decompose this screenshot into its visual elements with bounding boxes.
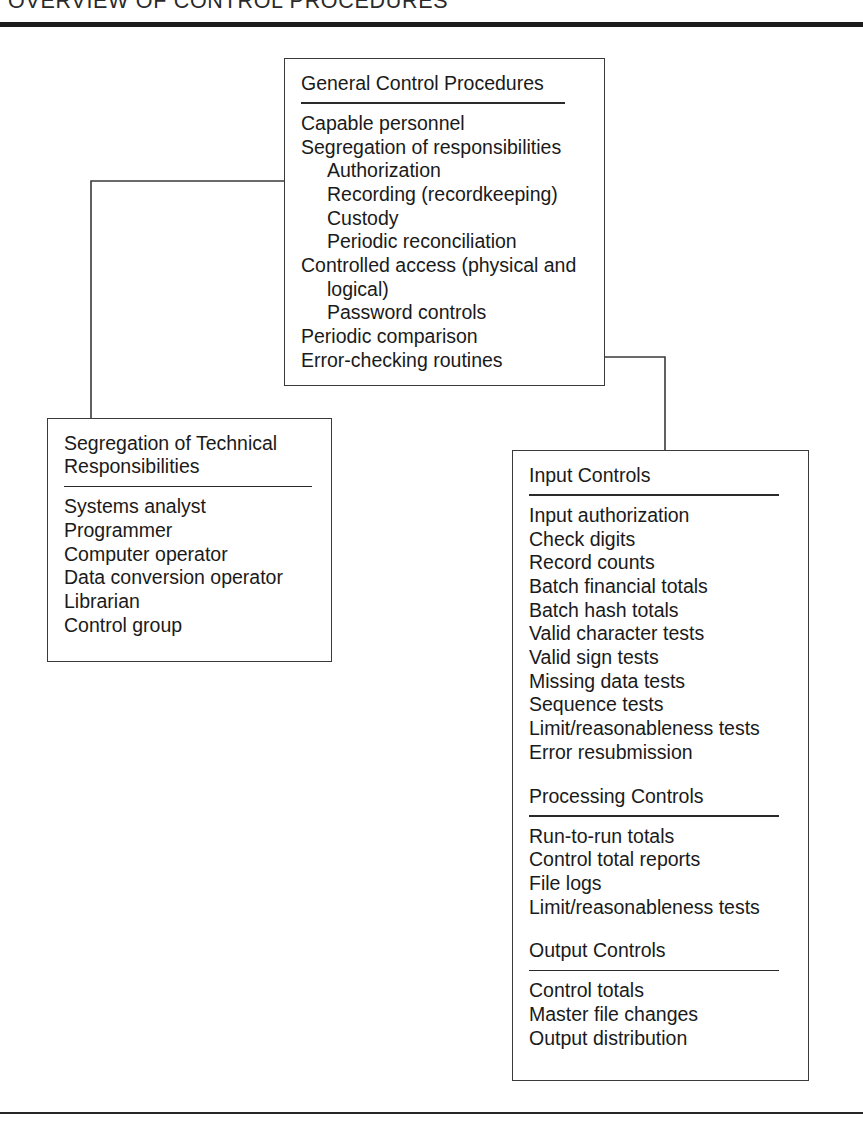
list-processing-controls: Run-to-run totals Control total reports … <box>529 825 792 920</box>
list-item: Password controls <box>301 301 588 325</box>
panel-heading-input-controls: Input Controls <box>529 464 792 487</box>
list-item: Librarian <box>64 590 315 614</box>
list-item: Valid character tests <box>529 622 792 646</box>
list-item: Systems analyst <box>64 495 315 519</box>
list-item: Custody <box>301 207 588 231</box>
list-general-control-procedures: Capable personnel Segregation of respons… <box>301 112 588 373</box>
list-item: Sequence tests <box>529 693 792 717</box>
list-item: Authorization <box>301 159 588 183</box>
header-rule <box>0 22 863 27</box>
list-item: Master file changes <box>529 1003 792 1027</box>
heading-underline <box>64 486 312 488</box>
list-item: Control totals <box>529 979 792 1003</box>
footer-rule <box>0 1112 863 1114</box>
list-item: Missing data tests <box>529 670 792 694</box>
list-item: Control total reports <box>529 848 792 872</box>
list-item: Programmer <box>64 519 315 543</box>
heading-underline <box>301 102 565 104</box>
list-item: Record counts <box>529 551 792 575</box>
heading-underline <box>529 815 779 817</box>
list-item: Batch hash totals <box>529 599 792 623</box>
section-spacer <box>529 765 792 785</box>
list-item: Error-checking routines <box>301 349 588 373</box>
list-item: File logs <box>529 872 792 896</box>
panel-general-control-procedures: General Control Procedures Capable perso… <box>284 58 605 386</box>
list-item: Error resubmission <box>529 741 792 765</box>
list-item: Valid sign tests <box>529 646 792 670</box>
section-spacer <box>529 919 792 939</box>
connector-general-to-segregation <box>91 181 284 418</box>
list-technical-responsibilities: Systems analyst Programmer Computer oper… <box>64 495 315 637</box>
list-item: Periodic reconciliation <box>301 230 588 254</box>
panel-segregation-of-technical-responsibilities: Segregation of Technical Responsibilitie… <box>47 418 332 662</box>
list-item: Input authorization <box>529 504 792 528</box>
panel-application-controls: Input Controls Input authorization Check… <box>512 450 809 1081</box>
list-item: Periodic comparison <box>301 325 588 349</box>
panel-heading-segregation: Segregation of Technical Responsibilitie… <box>64 432 315 479</box>
list-item: Limit/reasonableness tests <box>529 896 792 920</box>
list-item: Capable personnel <box>301 112 588 136</box>
list-item: Limit/reasonableness tests <box>529 717 792 741</box>
list-item: Output distribution <box>529 1027 792 1051</box>
panel-heading-output-controls: Output Controls <box>529 939 792 962</box>
connector-general-to-application <box>605 357 665 450</box>
panel-heading-general: General Control Procedures <box>301 72 588 95</box>
list-item: Segregation of responsibilities <box>301 136 588 160</box>
list-item: Run-to-run totals <box>529 825 792 849</box>
heading-underline <box>529 970 779 972</box>
list-input-controls: Input authorization Check digits Record … <box>529 504 792 765</box>
list-item: Recording (recordkeeping) <box>301 183 588 207</box>
figure-title: OVERVIEW OF CONTROL PROCEDURES <box>8 0 448 14</box>
list-item: Data conversion operator <box>64 566 315 590</box>
heading-underline <box>529 494 779 496</box>
list-item: Computer operator <box>64 543 315 567</box>
list-item: Control group <box>64 614 315 638</box>
list-output-controls: Control totals Master file changes Outpu… <box>529 979 792 1050</box>
list-item: Batch financial totals <box>529 575 792 599</box>
list-item: Check digits <box>529 528 792 552</box>
figure-root: OVERVIEW OF CONTROL PROCEDURES General C… <box>0 0 863 1140</box>
list-item: Controlled access (physical and logical) <box>301 254 588 301</box>
panel-heading-processing-controls: Processing Controls <box>529 785 792 808</box>
